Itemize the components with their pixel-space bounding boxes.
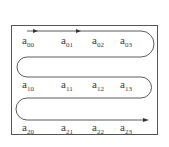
- arrow-right-icon: [33, 29, 38, 33]
- element-a03: a03: [120, 35, 132, 49]
- element-a20: a20: [22, 122, 34, 136]
- element-a12: a12: [92, 79, 104, 93]
- element-a22: a22: [92, 122, 104, 136]
- element-a13: a13: [120, 79, 132, 93]
- element-a21: a21: [61, 122, 73, 136]
- element-a11: a11: [61, 79, 73, 93]
- serpentine-path: [16, 31, 154, 120]
- arrow-right-icon: [143, 118, 149, 122]
- element-a00: a00: [22, 35, 34, 49]
- element-a23: a23: [120, 122, 132, 136]
- element-a01: a01: [61, 35, 73, 49]
- arrow-right-icon: [76, 29, 81, 33]
- element-a02: a02: [92, 35, 104, 49]
- element-a10: a10: [22, 79, 34, 93]
